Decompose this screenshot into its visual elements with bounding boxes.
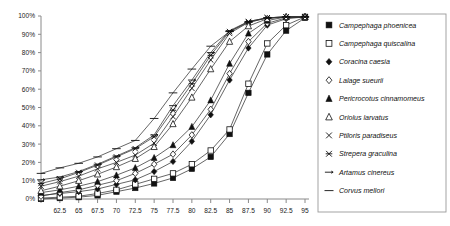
x-tick-label: 92.5 xyxy=(280,207,293,214)
data-point-star-cross xyxy=(170,108,176,113)
data-point-dash-arrow xyxy=(169,105,177,107)
x-tick-label: 87.5 xyxy=(242,207,255,214)
series-markers xyxy=(37,13,310,201)
y-tick-label: 0% xyxy=(25,195,35,202)
legend-item-label: Oriolus larvatus xyxy=(339,114,389,122)
legend-item-label: Strepera graculina xyxy=(339,150,397,158)
x-tick-label: 90 xyxy=(264,207,272,214)
data-point-open-diamond xyxy=(151,161,156,168)
data-point-open-square xyxy=(208,148,213,153)
data-point-open-triangle xyxy=(226,38,232,44)
x-tick-label: 70 xyxy=(113,207,121,214)
x-tick-label: 80 xyxy=(188,207,196,214)
legend-item-label: Pericrocotus cinnamomeus xyxy=(339,95,425,103)
data-point-x-cross xyxy=(189,86,194,91)
data-point-filled-square xyxy=(246,90,251,95)
data-point-x-cross xyxy=(208,57,213,62)
data-point-filled-triangle xyxy=(208,97,214,103)
data-point-open-square xyxy=(227,127,232,132)
data-point-open-diamond xyxy=(133,170,138,177)
data-point-star-cross xyxy=(189,81,195,86)
x-tick-label: 72.5 xyxy=(129,207,142,214)
y-tick-label: 70% xyxy=(22,67,35,74)
x-tick-label: 77.5 xyxy=(167,207,180,214)
y-tick-label: 100% xyxy=(18,12,35,19)
x-tick-label: 62.5 xyxy=(53,207,66,214)
y-tick-label: 40% xyxy=(22,122,35,129)
x-tick-label: 67.5 xyxy=(91,207,104,214)
data-point-open-square xyxy=(151,176,156,181)
legend-item-label: Campephaga phoenicea xyxy=(339,22,416,30)
data-point-open-square xyxy=(283,22,288,27)
x-tick-label: 65 xyxy=(75,207,83,214)
y-tick-label: 10% xyxy=(22,177,35,184)
y-tick-label: 80% xyxy=(22,49,35,56)
data-point-dash-arrow xyxy=(188,79,196,81)
data-point-filled-square xyxy=(265,52,270,57)
x-tick-label: 82.5 xyxy=(204,207,217,214)
legend-item-label: Artamus cinereus xyxy=(338,169,395,177)
legend-item-label: Lalage sueurii xyxy=(339,77,384,85)
legend-item-label: Coracina caesia xyxy=(339,58,390,66)
data-point-filled-triangle xyxy=(114,172,120,178)
legend-item-label: Corvus mellori xyxy=(339,187,385,195)
data-point-filled-triangle xyxy=(227,60,233,66)
data-point-open-square xyxy=(114,187,119,192)
data-point-open-triangle xyxy=(189,94,195,100)
data-point-filled-diamond xyxy=(151,168,156,174)
legend: Campephaga phoeniceaCampephaga quiscalin… xyxy=(318,14,446,212)
x-tick-label: 85 xyxy=(226,207,234,214)
y-tick-label: 90% xyxy=(22,31,35,38)
data-point-filled-square xyxy=(208,154,213,159)
data-point-open-diamond xyxy=(227,70,232,77)
data-point-open-square xyxy=(170,171,175,176)
legend-item-label: Campephaga quiscalina xyxy=(339,40,415,48)
y-axis-tick-labels: 0%10%20%30%40%50%60%70%80%90%100% xyxy=(18,12,35,202)
y-tick-label: 20% xyxy=(22,159,35,166)
x-tick-label: 75 xyxy=(150,207,158,214)
data-point-filled-triangle xyxy=(246,30,252,36)
x-tick-label: 95 xyxy=(301,207,309,214)
data-point-open-square xyxy=(189,162,194,167)
y-tick-label: 30% xyxy=(22,141,35,148)
data-point-open-triangle xyxy=(94,171,100,177)
data-point-open-square xyxy=(326,41,332,47)
data-point-dash-arrow xyxy=(207,52,215,54)
data-point-filled-square xyxy=(283,28,288,33)
data-point-open-square xyxy=(246,81,251,86)
cumulative-distribution-chart: 0%10%20%30%40%50%60%70%80%90%100% 62.565… xyxy=(0,0,450,226)
x-axis-tick-labels: 62.56567.57072.57577.58082.58587.59092.5… xyxy=(53,207,309,214)
data-point-filled-triangle xyxy=(132,165,138,171)
data-point-filled-triangle xyxy=(151,155,157,161)
chart-root: 0%10%20%30%40%50%60%70%80%90%100% 62.565… xyxy=(0,0,450,226)
legend-item-label: Ptiloris paradiseus xyxy=(339,132,397,140)
data-point-filled-square xyxy=(326,22,332,28)
data-point-open-square xyxy=(265,41,270,46)
y-tick-label: 60% xyxy=(22,86,35,93)
data-point-x-cross xyxy=(170,114,175,119)
y-tick-label: 50% xyxy=(22,104,35,111)
